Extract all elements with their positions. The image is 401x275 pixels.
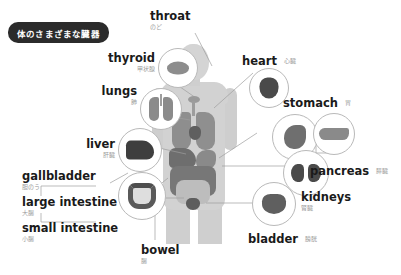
label-gallbladder-en: gallbladder xyxy=(22,170,96,182)
lungs-icon xyxy=(149,97,173,121)
label-pancreas-en: pancreas xyxy=(310,164,369,178)
label-bladder: bladder 膀胱 xyxy=(248,228,317,247)
label-small-intestine-jp: 小腸 xyxy=(22,235,118,243)
label-lungs: lungs 肺 xyxy=(62,85,137,106)
body-leg-left xyxy=(166,204,190,244)
pancreas-icon xyxy=(319,128,349,140)
page-title: 体のさまざまな臓器 xyxy=(17,27,100,39)
label-bladder-en: bladder xyxy=(248,232,298,246)
label-gallbladder-jp: 胆のう xyxy=(22,183,96,191)
label-thyroid: thyroid 甲状腺 xyxy=(80,52,155,73)
label-large-intestine-jp: 大腸 xyxy=(22,209,117,217)
stomach-icon xyxy=(284,125,306,149)
label-liver-en: liver xyxy=(40,138,115,150)
label-gallbladder: gallbladder 胆のう xyxy=(22,170,96,191)
label-kidneys-jp: 腎臓 xyxy=(301,204,351,212)
label-heart: heart 心臓 xyxy=(242,50,296,69)
figure-liver-icon xyxy=(169,148,196,168)
label-pancreas-jp: 膵臓 xyxy=(376,167,388,174)
callout-thyroid[interactable] xyxy=(158,48,198,88)
label-small-intestine: small intestine 小腸 xyxy=(22,222,118,243)
label-lungs-en: lungs xyxy=(62,85,137,97)
figure-bladder-icon xyxy=(186,198,200,210)
body-leg-right xyxy=(198,204,222,244)
bladder-icon xyxy=(262,194,286,214)
heart-icon xyxy=(260,78,279,99)
label-throat-jp: のど xyxy=(150,23,191,31)
label-liver: liver 肝臓 xyxy=(40,138,115,159)
callout-liver[interactable] xyxy=(118,128,162,172)
organ-diagram: 体のさまざまな臓器 xyxy=(0,0,401,275)
title-banner: 体のさまざまな臓器 xyxy=(8,22,109,43)
callout-pancreas[interactable] xyxy=(313,113,355,155)
label-bladder-jp: 膀胱 xyxy=(305,235,317,242)
label-throat-en: throat xyxy=(150,10,191,22)
liver-icon xyxy=(126,141,154,160)
label-kidneys: kidneys 腎臓 xyxy=(301,191,351,212)
label-bowel-en: bowel xyxy=(141,244,180,256)
label-large-intestine: large intestine 大腸 xyxy=(22,196,117,217)
label-stomach-en: stomach xyxy=(283,96,338,110)
label-heart-en: heart xyxy=(242,54,277,68)
thyroid-icon xyxy=(167,62,189,75)
label-pancreas: pancreas 膵臓 xyxy=(310,160,388,179)
label-thyroid-jp: 甲状腺 xyxy=(80,65,155,73)
label-kidneys-en: kidneys xyxy=(301,191,351,203)
label-stomach: stomach 胃 xyxy=(283,92,351,111)
label-lungs-jp: 肺 xyxy=(62,98,137,106)
label-liver-jp: 肝臓 xyxy=(40,151,115,159)
callout-lungs[interactable] xyxy=(140,88,182,130)
label-bowel-jp: 腸 xyxy=(141,257,180,265)
label-throat: throat のど xyxy=(150,10,191,31)
callout-large-intestine[interactable] xyxy=(118,172,166,220)
label-stomach-jp: 胃 xyxy=(345,99,351,106)
figure-trachea-icon xyxy=(192,101,195,116)
figure-heart-icon xyxy=(189,126,201,140)
label-heart-jp: 心臓 xyxy=(284,57,296,64)
callout-bladder[interactable] xyxy=(252,182,296,226)
large-intestine-icon xyxy=(128,183,156,209)
label-large-intestine-en: large intestine xyxy=(22,196,117,208)
label-small-intestine-en: small intestine xyxy=(22,222,118,234)
label-bowel: bowel 腸 xyxy=(141,244,180,265)
label-thyroid-en: thyroid xyxy=(80,52,155,64)
